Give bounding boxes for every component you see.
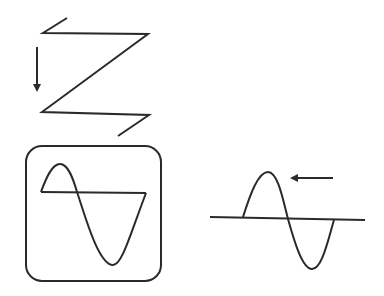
sine-wave-trace xyxy=(41,164,146,265)
screen-frame xyxy=(26,146,161,281)
sine-wave xyxy=(243,172,334,269)
display-waveform xyxy=(26,146,161,281)
diagram-canvas xyxy=(0,0,384,296)
zigzag-scan-path xyxy=(42,18,149,136)
retrace-line xyxy=(41,192,146,193)
raster-scan xyxy=(37,18,149,136)
traveling-wave xyxy=(210,172,365,269)
